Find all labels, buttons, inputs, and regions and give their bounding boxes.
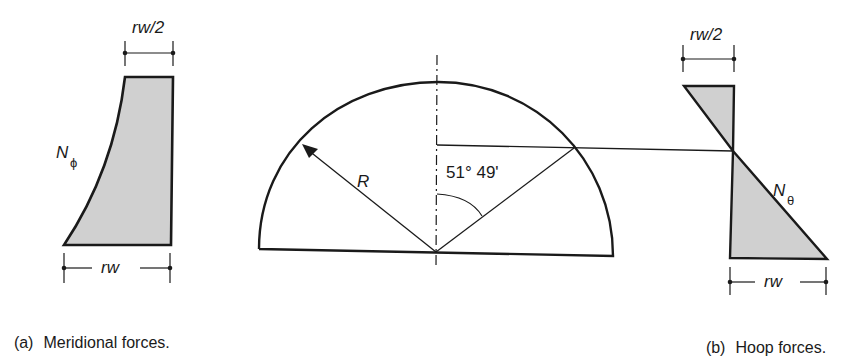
hoop-force-panel: rw/2 N θ rw [681,25,829,295]
top-dimension-b: rw/2 [681,25,737,72]
bottom-dimension-a-label: rw [101,258,121,277]
n-phi-symbol: N [56,143,69,162]
n-theta-subscript: θ [787,193,794,208]
top-dimension-a-label: rw/2 [132,18,165,37]
n-theta-symbol: N [773,181,786,200]
n-phi-subscript: ϕ [70,155,77,170]
caption-b-tag: (b) [706,339,726,356]
axis-of-symmetry [436,55,437,268]
radius-line [308,150,436,252]
angle-arc [437,194,482,216]
caption-a: (a)Meridional forces. [5,316,170,352]
angle-label: 51° 49' [446,163,499,182]
top-dimension-a: rw/2 [123,18,176,66]
hoop-force-upper-triangle [684,86,734,151]
bottom-dimension-b: rw [728,267,829,295]
shell-force-diagram: rw/2 N ϕ rw R 51° [0,0,866,357]
meridional-force-shape [64,77,173,245]
dome-section: R 51° 49' [259,55,733,268]
caption-b: (b)Hoop forces. [697,321,826,357]
caption-a-tag: (a) [14,334,34,351]
projection-line [437,145,733,151]
hoop-force-lower-triangle [730,151,827,259]
caption-b-text: Hoop forces. [735,339,826,356]
radius-label: R [357,172,369,191]
bottom-dimension-b-label: rw [764,272,784,291]
top-dimension-b-label: rw/2 [690,25,723,44]
meridional-force-panel: rw/2 N ϕ rw [56,18,175,283]
caption-a-text: Meridional forces. [43,334,169,351]
bottom-dimension-a: rw [62,253,173,283]
